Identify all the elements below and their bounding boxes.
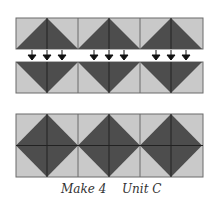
assembled-strip bbox=[16, 114, 203, 177]
unit-label: Unit C bbox=[122, 182, 162, 196]
arrow-icon bbox=[58, 50, 66, 60]
quilt-unit-diagram bbox=[0, 0, 221, 209]
arrow-icon bbox=[105, 50, 113, 60]
arrow-icon bbox=[120, 50, 128, 60]
arrow-icon bbox=[43, 50, 51, 60]
arrow-icon bbox=[28, 50, 36, 60]
arrow-icon bbox=[167, 50, 175, 60]
arrow-icon bbox=[152, 50, 160, 60]
bottom-strip bbox=[16, 62, 203, 93]
arrow-icon bbox=[90, 50, 98, 60]
top-strip bbox=[16, 18, 203, 49]
arrows bbox=[28, 50, 190, 60]
quantity-label: Make 4 bbox=[61, 182, 106, 196]
arrow-icon bbox=[182, 50, 190, 60]
